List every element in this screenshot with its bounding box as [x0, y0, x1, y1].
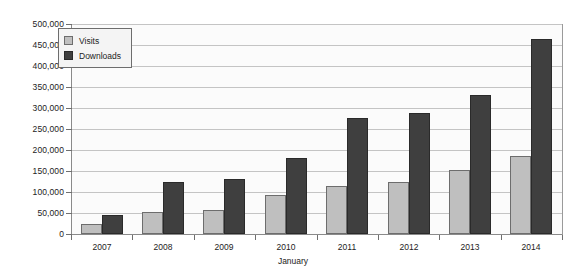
x-axis-tick: [562, 235, 563, 240]
y-axis-tick: [66, 192, 72, 193]
bar-downloads-2009: [224, 179, 245, 234]
x-axis-tick: [71, 235, 72, 240]
chart-legend: Visits Downloads: [58, 28, 132, 68]
x-axis-tick: [132, 235, 133, 240]
x-axis-tick-label-2014: 2014: [522, 242, 541, 252]
x-axis-tick-label-2011: 2011: [338, 242, 356, 252]
bar-visits-2014: [510, 156, 531, 234]
y-axis-tick: [66, 87, 72, 88]
bar-downloads-2012: [409, 113, 430, 234]
bar-visits-2007: [81, 224, 102, 234]
legend-item-visits: Visits: [64, 33, 121, 48]
bar-downloads-2011: [347, 118, 368, 234]
x-axis-tick-label-2007: 2007: [93, 242, 112, 252]
x-axis-tick-label-2012: 2012: [400, 242, 419, 252]
bar-downloads-2013: [470, 95, 491, 234]
bar-visits-2009: [203, 210, 224, 234]
y-axis-tick-label: 0: [59, 229, 64, 239]
bar-visits-2008: [142, 212, 163, 234]
legend-swatch-visits: [64, 36, 73, 45]
y-axis-tick: [66, 171, 72, 172]
y-axis-tick-label: 150,000: [33, 166, 64, 176]
x-axis-tick: [378, 235, 379, 240]
y-axis-tick-label: 200,000: [33, 145, 64, 155]
legend-label-visits: Visits: [79, 36, 99, 46]
y-axis-tick-label: 350,000: [33, 82, 64, 92]
x-axis-tick: [317, 235, 318, 240]
bar-downloads-2008: [163, 182, 184, 234]
bar-downloads-2014: [531, 39, 552, 234]
x-axis-tick-label-2010: 2010: [277, 242, 296, 252]
gridline: [71, 45, 562, 46]
x-axis-title: January: [0, 256, 586, 266]
y-axis-tick: [66, 108, 72, 109]
x-axis-tick-label-2009: 2009: [215, 242, 234, 252]
legend-item-downloads: Downloads: [64, 48, 121, 63]
y-axis-tick: [66, 150, 72, 151]
x-axis-tick-label-2013: 2013: [461, 242, 480, 252]
gridline: [71, 66, 562, 67]
x-axis-tick: [194, 235, 195, 240]
bar-visits-2010: [265, 195, 286, 234]
y-axis-tick-label: 300,000: [33, 103, 64, 113]
bar-visits-2011: [326, 186, 347, 234]
y-axis-tick: [66, 129, 72, 130]
legend-label-downloads: Downloads: [79, 51, 121, 61]
x-axis-tick: [439, 235, 440, 240]
bar-downloads-2007: [102, 215, 123, 234]
plot-right-border: [562, 24, 563, 235]
gridline: [71, 24, 562, 25]
x-axis-tick: [501, 235, 502, 240]
x-axis-tick-label-2008: 2008: [154, 242, 173, 252]
y-axis-tick-label: 50,000: [37, 208, 64, 218]
y-axis-tick-label: 250,000: [33, 124, 64, 134]
y-axis-tick-label: 100,000: [33, 187, 64, 197]
x-axis-tick: [255, 235, 256, 240]
bar-chart: 050,000100,000150,000200,000250,000300,0…: [0, 0, 586, 277]
y-axis-tick: [66, 213, 72, 214]
legend-swatch-downloads: [64, 51, 73, 60]
bar-visits-2013: [449, 170, 470, 234]
gridline: [71, 87, 562, 88]
bar-downloads-2010: [286, 158, 307, 234]
bar-visits-2012: [388, 182, 409, 234]
y-axis-tick: [66, 24, 72, 25]
